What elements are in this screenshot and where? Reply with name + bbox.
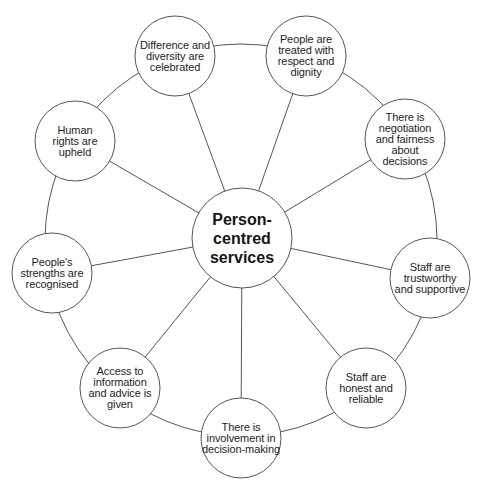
node-label-strengths: People's strengths are recognised <box>12 233 92 313</box>
node-label-trustworthy: Staff are trustworthy and supportive <box>390 238 470 318</box>
center-node-label: Person- centred services <box>192 188 292 288</box>
node-label-honest: Staff are honest and reliable <box>326 348 406 428</box>
node-label-difference: Difference and diversity are celebrated <box>135 16 215 96</box>
node-label-involvement: There is involvement in decision-making <box>201 398 281 478</box>
node-label-respect: People are treated with respect and dign… <box>266 16 346 96</box>
node-label-negotiation: There is negotiation and fairness about … <box>365 99 445 179</box>
person-centred-services-diagram: Person- centred services Difference and … <box>0 0 479 495</box>
node-label-human-rights: Human rights are upheld <box>35 101 115 181</box>
node-label-access: Access to information and advice is give… <box>80 348 160 428</box>
